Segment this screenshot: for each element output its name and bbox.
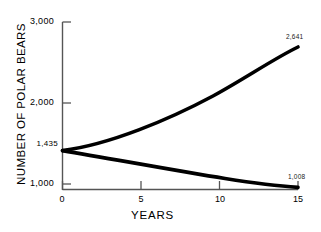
x-tick-label-0: 0 [50,194,74,204]
x-tick-label-10: 10 [208,194,232,204]
increasing-population-curve [63,47,299,151]
y-tick-label-2000: 2,000 [10,97,54,107]
origin-value-label: 1,435 [14,139,58,148]
y-tick-label-1000: 1,000 [10,178,54,188]
y-tick-label-3000: 3,000 [10,16,54,26]
x-axis-title: YEARS [131,209,174,221]
polar-bear-population-chart: NUMBER OF POLAR BEARS YEARS 3,000 2,000 … [0,0,321,232]
plot-area [0,0,321,232]
decreasing-population-curve [63,151,299,188]
x-tick-label-15: 15 [286,194,310,204]
lower-endpoint-label: 1,008 [288,173,305,180]
upper-endpoint-label: 2,641 [286,33,303,40]
x-tick-label-5: 5 [129,194,153,204]
